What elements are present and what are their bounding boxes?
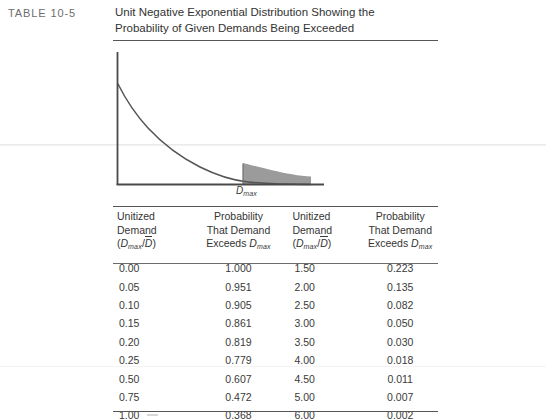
header-line-1: Unitized [117,210,191,224]
exponential-probability-table: Unitized Demand (Dmax/D) Probability Tha… [113,210,438,419]
table-cell-c1: 0.50 [113,369,191,387]
column-header-unitized-demand-1: Unitized Demand (Dmax/D) [113,210,191,254]
table-cell-c1: 0.00 [113,254,191,278]
table-cell-c3: 4.00 [286,351,362,369]
table-cell-c3: 2.00 [286,278,362,296]
header-line-1: Probability [191,210,287,224]
table-cell-c2: 0.607 [191,369,287,387]
table-cell-c2: 0.368 [191,406,287,419]
table-cell-c4: 0.002 [362,406,438,419]
d-bar-symbol: D [145,237,153,251]
table-row: 0.050.9512.000.135 [113,278,438,296]
table-cell-c1: 0.75 [113,388,191,406]
table-cell-c1: 0.05 [113,278,191,296]
table-cell-c2: 1.000 [191,254,287,278]
distribution-chart-svg [100,45,350,200]
table-cell-c2: 0.472 [191,388,287,406]
table-header-row: Unitized Demand (Dmax/D) Probability Tha… [113,210,438,254]
caption-line-2: Probability of Given Demands Being Excee… [115,21,445,37]
table-row: 0.150.8613.000.050 [113,314,438,332]
exponential-curve [118,84,310,185]
shaded-tail-region [243,163,311,184]
table-row: 0.500.6074.500.011 [113,369,438,387]
table-cell-c4: 0.135 [362,278,438,296]
header-line-3: (Dmax/D) [292,237,362,254]
dmax-subscript: max [243,190,257,197]
table-cell-c2: 0.779 [191,351,287,369]
table-body: 0.001.0001.500.2230.050.9512.000.1350.10… [113,254,438,419]
table-caption: Unit Negative Exponential Distribution S… [115,5,445,36]
table-cell-c3: 2.50 [286,296,362,314]
header-line-1: Probability [362,210,438,224]
header-line-1: Unitized [292,210,362,224]
header-line-2: That Demand [191,224,287,238]
table-row: 0.100.9052.500.082 [113,296,438,314]
table-row: 0.200.8193.500.030 [113,333,438,351]
table-cell-c3: 6.00 [286,406,362,419]
d-bar-symbol: D [320,237,328,251]
dmax-axis-annotation: Dmax [236,185,257,197]
caption-line-1: Unit Negative Exponential Distribution S… [115,5,445,21]
header-line-3: Exceeds Dmax [191,237,287,254]
table-row: 0.001.0001.500.223 [113,254,438,278]
table-row: 0.750.4725.000.007 [113,388,438,406]
table-cell-c1: 0.25 [113,351,191,369]
column-header-probability-2: Probability That Demand Exceeds Dmax [362,210,438,254]
column-header-unitized-demand-2: Unitized Demand (Dmax/D) [286,210,362,254]
table-number-label: TABLE 10-5 [8,7,76,19]
table-cell-c4: 0.082 [362,296,438,314]
table-cell-c2: 0.861 [191,314,287,332]
table-row: 1.000.3686.000.002 [113,406,438,419]
page-scan-footmark [147,414,158,416]
table-cell-c3: 1.50 [286,254,362,278]
table-cell-c1: 1.00 [113,406,191,419]
table-row: 0.250.7794.000.018 [113,351,438,369]
table-bottom-rule [113,411,438,412]
header-line-3: (Dmax/D) [117,237,191,254]
exponential-distribution-figure: Dmax [100,45,350,200]
table-cell-c2: 0.951 [191,278,287,296]
table-cell-c3: 4.50 [286,369,362,387]
table-cell-c4: 0.050 [362,314,438,332]
table-cell-c4: 0.007 [362,388,438,406]
table-top-rule [113,206,438,207]
column-header-probability-1: Probability That Demand Exceeds Dmax [191,210,287,254]
table-cell-c4: 0.223 [362,254,438,278]
table-cell-c3: 3.00 [286,314,362,332]
table-cell-c4: 0.030 [362,333,438,351]
table-cell-c3: 5.00 [286,388,362,406]
header-line-2: That Demand [362,224,438,238]
table-header: Unitized Demand (Dmax/D) Probability Tha… [113,210,438,254]
table-cell-c2: 0.819 [191,333,287,351]
table-header-rule [113,263,438,264]
table-cell-c1: 0.10 [113,296,191,314]
table-cell-c4: 0.018 [362,351,438,369]
table-cell-c4: 0.011 [362,369,438,387]
table-cell-c1: 0.15 [113,314,191,332]
header-line-3: Exceeds Dmax [362,237,438,254]
table-cell-c3: 3.50 [286,333,362,351]
table-cell-c1: 0.20 [113,333,191,351]
table-cell-c2: 0.905 [191,296,287,314]
caption-divider-rule [113,40,438,41]
header-line-2: Demand [117,224,191,238]
